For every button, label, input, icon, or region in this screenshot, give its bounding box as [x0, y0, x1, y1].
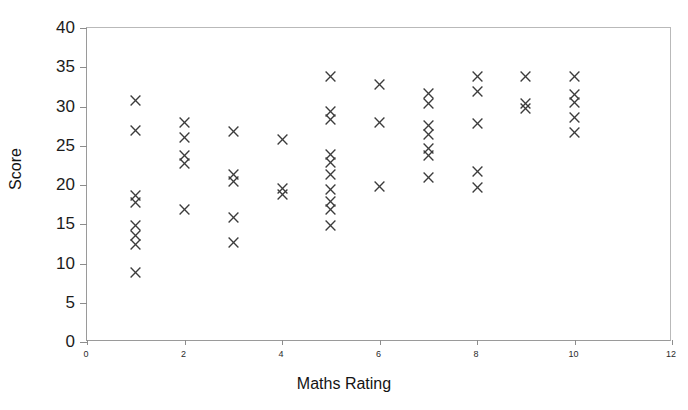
data-point-marker — [519, 102, 532, 115]
y-tick-mark — [80, 303, 87, 304]
data-point-marker — [129, 196, 142, 209]
data-point-marker — [471, 70, 484, 83]
data-point-marker — [471, 181, 484, 194]
data-point-marker — [324, 113, 337, 126]
data-point-marker — [324, 70, 337, 83]
data-point-marker — [568, 96, 581, 109]
data-point-marker — [568, 70, 581, 83]
data-point-marker — [129, 238, 142, 251]
data-point-marker — [373, 116, 386, 129]
data-point-marker — [178, 131, 191, 144]
y-tick-label: 35 — [29, 58, 75, 75]
x-tick-label: 12 — [656, 350, 686, 359]
data-point-marker — [422, 97, 435, 110]
data-point-marker — [324, 156, 337, 169]
data-point-marker — [373, 180, 386, 193]
data-point-marker — [568, 88, 581, 101]
data-point-marker — [227, 211, 240, 224]
scatter-chart-figure: Score 0510152025303540 024681012 Maths R… — [0, 0, 688, 410]
x-tick-mark — [672, 340, 673, 345]
y-tick-label: 25 — [29, 137, 75, 154]
x-tick-mark — [282, 340, 283, 345]
data-point-marker — [422, 119, 435, 132]
data-point-marker — [129, 229, 142, 242]
x-tick-mark — [477, 340, 478, 345]
data-point-marker — [178, 157, 191, 170]
data-point-marker — [373, 78, 386, 91]
y-tick-mark — [80, 342, 87, 343]
x-axis-title: Maths Rating — [0, 375, 688, 393]
y-tick-mark — [80, 264, 87, 265]
data-point-marker — [129, 124, 142, 137]
y-tick-mark — [80, 185, 87, 186]
plot-area — [86, 27, 671, 341]
data-point-marker — [129, 266, 142, 279]
y-tick-label: 20 — [29, 176, 75, 193]
y-tick-label: 40 — [29, 19, 75, 36]
data-point-marker — [276, 133, 289, 146]
y-tick-mark — [80, 224, 87, 225]
data-point-marker — [324, 195, 337, 208]
x-tick-label: 4 — [266, 350, 296, 359]
y-tick-mark — [80, 28, 87, 29]
y-axis-title: Score — [7, 109, 25, 229]
y-tick-mark — [80, 107, 87, 108]
data-point-marker — [422, 87, 435, 100]
y-tick-mark — [80, 67, 87, 68]
y-tick-label: 15 — [29, 215, 75, 232]
data-point-marker — [422, 128, 435, 141]
data-point-marker — [227, 236, 240, 249]
data-point-marker — [178, 203, 191, 216]
data-point-marker — [519, 70, 532, 83]
data-point-marker — [227, 175, 240, 188]
data-point-marker — [129, 189, 142, 202]
data-point-marker — [129, 94, 142, 107]
data-point-marker — [568, 126, 581, 139]
data-point-marker — [324, 203, 337, 216]
data-point-marker — [324, 105, 337, 118]
data-point-marker — [471, 85, 484, 98]
x-tick-label: 10 — [559, 350, 589, 359]
data-point-marker — [178, 116, 191, 129]
data-point-marker — [129, 219, 142, 232]
data-point-marker — [324, 183, 337, 196]
data-point-marker — [471, 165, 484, 178]
x-tick-label: 0 — [71, 350, 101, 359]
x-tick-mark — [87, 340, 88, 345]
y-tick-label: 0 — [29, 333, 75, 350]
data-point-marker — [471, 117, 484, 130]
x-tick-label: 6 — [364, 350, 394, 359]
data-point-marker — [422, 149, 435, 162]
x-tick-mark — [185, 340, 186, 345]
y-tick-label: 5 — [29, 294, 75, 311]
y-tick-mark — [80, 146, 87, 147]
data-point-marker — [568, 111, 581, 124]
x-tick-label: 2 — [169, 350, 199, 359]
data-point-marker — [324, 168, 337, 181]
data-point-marker — [276, 182, 289, 195]
x-tick-mark — [380, 340, 381, 345]
data-point-marker — [422, 142, 435, 155]
y-tick-label: 30 — [29, 98, 75, 115]
data-point-marker — [227, 168, 240, 181]
data-point-marker — [519, 97, 532, 110]
x-tick-mark — [575, 340, 576, 345]
data-point-marker — [276, 188, 289, 201]
data-point-marker — [324, 148, 337, 161]
data-point-marker — [324, 219, 337, 232]
y-tick-label: 10 — [29, 255, 75, 272]
data-point-marker — [422, 171, 435, 184]
data-point-marker — [178, 149, 191, 162]
data-point-marker — [227, 125, 240, 138]
x-tick-label: 8 — [461, 350, 491, 359]
